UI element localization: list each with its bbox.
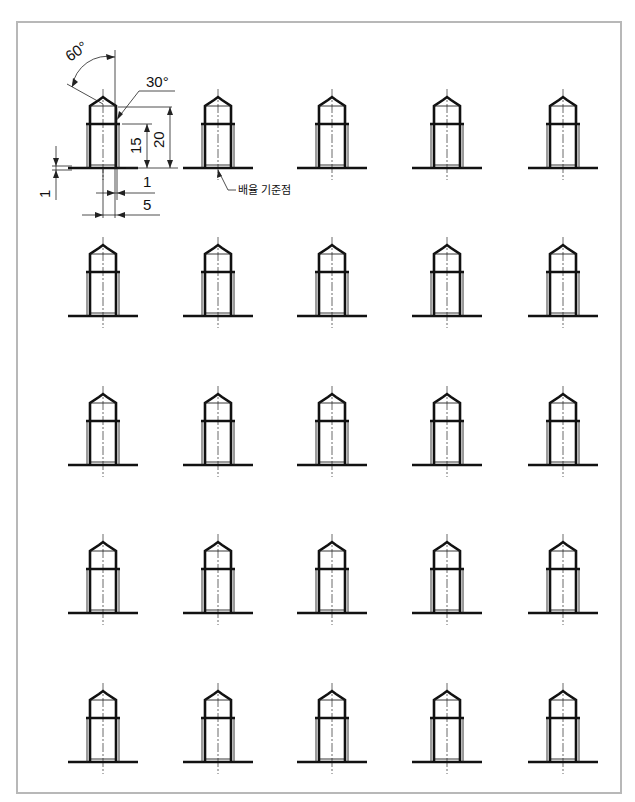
arrowhead — [167, 160, 173, 168]
bolt-figure — [183, 237, 253, 328]
bolt-figure — [412, 534, 482, 625]
arrowhead — [53, 170, 59, 178]
bolt-figure — [68, 386, 138, 477]
bolt-figure — [297, 683, 367, 774]
arrowhead — [72, 78, 78, 87]
bolt-figure — [412, 89, 482, 180]
bolt-figure — [528, 89, 598, 180]
arrowhead — [53, 158, 59, 166]
dimension-label-20: 20 — [150, 131, 167, 148]
arrowhead — [107, 190, 115, 196]
bolt-figure — [183, 89, 253, 180]
bolt-figure — [528, 534, 598, 625]
bolt-figure — [68, 89, 138, 180]
arrowhead — [144, 124, 150, 132]
arrowhead — [95, 212, 103, 218]
bolt-figure — [412, 386, 482, 477]
scale-reference-label: 배율 기준점 — [238, 184, 292, 197]
drawing-sheet: 60° 30° 15 20 1 1 5 — [0, 0, 635, 802]
bolt-figure — [297, 237, 367, 328]
bolt-figure — [68, 237, 138, 328]
arrowhead — [106, 54, 115, 60]
dimension-label-60: 60° — [62, 38, 90, 65]
arrowhead — [117, 190, 125, 196]
bolt-figure — [528, 683, 598, 774]
dimension-label-15: 15 — [127, 137, 144, 154]
dimension-annotations: 60° 30° 15 20 1 1 5 — [36, 38, 292, 218]
bolt-figure — [183, 386, 253, 477]
bolt-figure — [68, 683, 138, 774]
bolt-figure — [68, 534, 138, 625]
arrowhead — [167, 107, 173, 115]
bolt-figure — [528, 386, 598, 477]
angle-extension-line — [67, 84, 103, 104]
bolt-figure — [183, 683, 253, 774]
dimension-label-1-horizontal: 1 — [143, 173, 151, 190]
bolt-grid — [68, 89, 598, 774]
bolt-figure — [297, 89, 367, 180]
dimension-label-30: 30° — [146, 73, 169, 90]
arrowhead — [117, 212, 125, 218]
bolt-figure — [412, 683, 482, 774]
angle-arc-60 — [72, 56, 115, 87]
dimension-label-5: 5 — [143, 196, 151, 213]
arrowhead — [144, 160, 150, 168]
bolt-figure — [297, 386, 367, 477]
dimension-label-1-vertical: 1 — [36, 190, 53, 198]
bolt-figure — [528, 237, 598, 328]
bolt-figure — [412, 237, 482, 328]
bolt-figure — [183, 534, 253, 625]
bolt-figure — [297, 534, 367, 625]
